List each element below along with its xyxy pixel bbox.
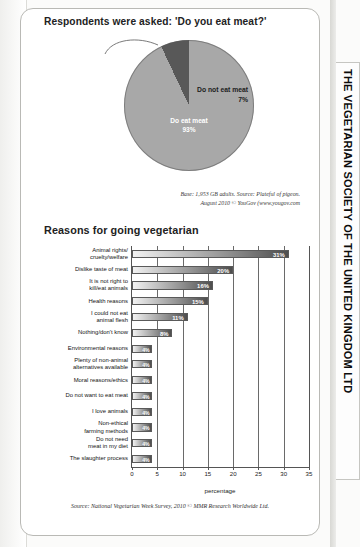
x-gridline — [208, 246, 209, 467]
bar-value-label: 4% — [142, 346, 150, 354]
bar-value-label: 4% — [142, 440, 150, 448]
x-tick-label: 20 — [230, 470, 237, 477]
pie-source-line-2: August 2010 © YouGov (www.yougov.com — [200, 200, 300, 206]
pie-noteat-value: 7% — [238, 96, 248, 103]
pie-leader-line — [104, 36, 164, 58]
bar-category-label: The slaughter process — [70, 455, 128, 462]
x-axis-label: percentage — [131, 487, 309, 494]
pie-chart-heading: Respondents were asked: 'Do you eat meat… — [44, 16, 266, 27]
bar-category-label: Plenty of non-animalalternatives availab… — [73, 357, 128, 372]
x-gridline — [258, 246, 259, 467]
bar: 15% — [132, 297, 208, 305]
x-tick-label: 30 — [280, 470, 287, 477]
bar-value-label: 8% — [160, 330, 169, 338]
side-tab: THE VEGETARIAN SOCIETY OF THE UNITED KIN… — [336, 62, 360, 480]
bar-value-label: 4% — [142, 409, 150, 417]
bar-value-label: 4% — [142, 377, 150, 385]
pie-noteat-category: Do not eat meat — [197, 86, 248, 93]
bar: 4% — [132, 360, 152, 368]
bar: 4% — [132, 345, 152, 353]
x-gridline — [233, 246, 234, 467]
pie-slice-label-not-eat: Do not eat meat 7% — [168, 85, 248, 104]
bar-value-label: 4% — [142, 456, 150, 464]
bar-category-label: Moral reasons/ethics — [74, 377, 128, 384]
bar-source-note: Source: National Vegetarian Week Survey,… — [30, 503, 310, 509]
pie-slices — [124, 40, 254, 171]
bar-value-label: 31% — [273, 251, 285, 259]
bar: 4% — [132, 455, 152, 463]
pie-chart: Do eat meat 93% Do not eat meat 7% — [124, 40, 254, 171]
pie-source-line-1: Base: 1,953 GB adults. Source: Plateful … — [180, 191, 300, 197]
bar: 16% — [132, 281, 213, 289]
x-gridline — [183, 246, 184, 467]
bar: 4% — [132, 376, 152, 384]
x-gridline — [309, 246, 310, 467]
x-tick-label: 0 — [130, 470, 133, 477]
bar: 20% — [132, 266, 233, 274]
bar: 4% — [132, 423, 152, 431]
bar-category-label: Non-ethicalfarming methods — [84, 420, 128, 435]
bar-category-label: Animal rights/cruelty/welfare — [90, 247, 128, 262]
bar: 11% — [132, 313, 188, 321]
bar-category-label: I could not eatanimal flesh — [91, 310, 128, 325]
bar-value-label: 15% — [192, 298, 204, 306]
x-tick-label: 15 — [204, 470, 211, 477]
bar-category-label: I love animals — [92, 408, 128, 415]
x-tick-label: 10 — [179, 470, 186, 477]
bar-value-label: 16% — [197, 282, 209, 290]
bar-value-label: 20% — [217, 267, 229, 275]
bar-category-label: Health reasons — [88, 298, 128, 305]
x-tick-label: 35 — [306, 470, 313, 477]
bar-value-label: 4% — [142, 361, 150, 369]
bar-category-label: Do not needmeat in my diet — [88, 436, 128, 451]
bar-category-label: Dislike taste of meat — [75, 266, 128, 273]
x-gridline — [284, 246, 285, 467]
pie-slice-label-eat: Do eat meat 93% — [124, 116, 254, 134]
bar-value-label: 4% — [142, 393, 150, 401]
bar-value-label: 11% — [172, 314, 183, 322]
bar-value-label: 4% — [142, 424, 150, 432]
bar-category-label: It is not right tokill/eat animals — [89, 278, 128, 293]
bar-category-label: Nothing/don't know — [78, 329, 128, 336]
bar: 4% — [132, 392, 152, 400]
bar: 4% — [132, 408, 152, 416]
bar-chart-plot-area: 0510152025303531%Animal rights/cruelty/w… — [131, 246, 309, 468]
pie-eat-value: 93% — [182, 126, 195, 133]
bar: 4% — [132, 439, 152, 447]
bar: 31% — [132, 250, 289, 258]
bar-chart-heading: Reasons for going vegetarian — [44, 224, 199, 236]
x-tick-label: 25 — [255, 470, 262, 477]
scanned-page-background: Respondents were asked: 'Do you eat meat… — [0, 0, 360, 547]
bar: 8% — [132, 329, 172, 337]
side-tab-label: THE VEGETARIAN SOCIETY OF THE UNITED KIN… — [336, 63, 360, 481]
pie-eat-category: Do eat meat — [170, 117, 207, 124]
pie-source-note: Base: 1,953 GB adults. Source: Plateful … — [120, 190, 300, 209]
x-gridline — [157, 246, 158, 467]
x-tick-label: 5 — [156, 470, 159, 477]
bar-category-label: Do not want to eat meat — [65, 392, 128, 399]
bar-category-label: Environmental reasons — [68, 345, 128, 352]
